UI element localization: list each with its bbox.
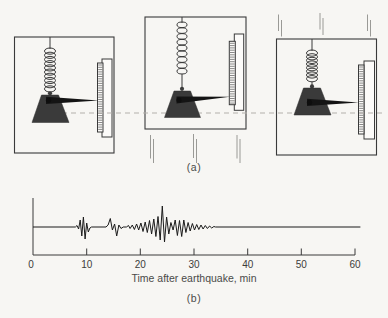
x-tick-label: 40 (242, 259, 254, 270)
x-axis-title: Time after earthquake, min (0, 272, 388, 284)
pen-pivot (307, 100, 312, 105)
x-tick-label: 30 (188, 259, 200, 270)
pen-pivot (46, 98, 51, 103)
pen-pivot (176, 97, 181, 102)
seismograph-pendulums (32, 17, 359, 123)
recording-drum (364, 61, 375, 139)
seismograph-figure: (a) 0102030405060 Time after earthquake,… (0, 0, 388, 318)
rest-pendulum (32, 37, 99, 123)
seismograph-frame-down-frame (277, 39, 377, 155)
pen-arm (46, 97, 99, 104)
frame-down-pendulum (294, 39, 359, 115)
ground-motion-lines-above-right-frame (279, 13, 371, 37)
frame-up-pendulum (165, 17, 231, 118)
x-axis-ticks: 0102030405060 (28, 249, 361, 270)
seismograph-panels-svg (0, 0, 388, 185)
x-tick-label: 60 (349, 259, 361, 270)
x-tick-label: 0 (28, 259, 34, 270)
spring-icon (177, 17, 187, 91)
part-b-label: (b) (0, 292, 388, 304)
seismograph-frames (15, 17, 377, 155)
seismograph-rest-frame (15, 37, 115, 153)
pen-arm (307, 99, 359, 106)
pen-arm (177, 97, 231, 104)
mass-weight (165, 91, 201, 118)
x-tick-label: 50 (296, 259, 308, 270)
x-tick-label: 10 (81, 259, 93, 270)
x-tick-label: 20 (135, 259, 147, 270)
ground-motion-lines-below-middle-frame (151, 134, 241, 163)
spring-icon (307, 39, 318, 89)
spring-icon (45, 37, 56, 95)
seismogram-trace (33, 206, 360, 242)
mass-hook-knob (180, 87, 184, 91)
part-a-label: (a) (0, 161, 388, 173)
drum-paper-ticks (230, 43, 235, 103)
